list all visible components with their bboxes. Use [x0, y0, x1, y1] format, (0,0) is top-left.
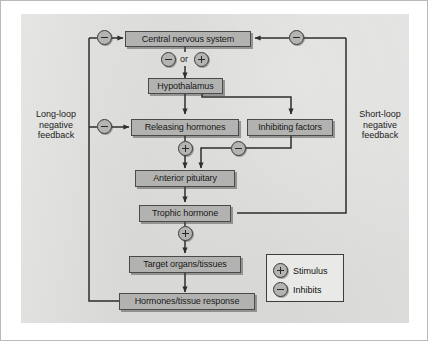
node-hormones-tissue-response[interactable]: Hormones/tissue response: [119, 293, 255, 310]
minus-glyph: [165, 59, 172, 61]
minus-glyph: [293, 37, 300, 39]
minus-glyph: [101, 126, 108, 128]
legend-item-inhibits: Inhibits: [273, 282, 322, 297]
token-minus-cns-output: [161, 52, 176, 67]
watermark: · ···· ·: [279, 318, 305, 325]
minus-glyph: [101, 37, 108, 39]
node-target-organs-tissues[interactable]: Target organs/tissues: [129, 256, 241, 273]
plus-glyph-vertical: [280, 267, 282, 274]
node-inhibiting-factors[interactable]: Inhibiting factors: [247, 119, 333, 136]
wire-long-loop-rail: [89, 38, 131, 301]
minus-glyph: [235, 148, 242, 150]
minus-glyph: [277, 289, 284, 291]
plus-icon: [273, 263, 288, 278]
node-anterior-pituitary[interactable]: Anterior pituitary: [135, 170, 235, 187]
plus-glyph-vertical: [185, 230, 187, 237]
token-plus-trophic-to-target: [178, 226, 193, 241]
node-hypothalamus[interactable]: Hypothalamus: [148, 78, 223, 94]
legend-box: Stimulus Inhibits: [266, 254, 344, 302]
wire-inhibiting-down-left: [246, 136, 291, 148]
token-minus-inhibiting-to-pituitary: [231, 141, 246, 156]
token-plus-releasing-to-pituitary: [178, 141, 193, 156]
legend-label-stimulus: Stimulus: [293, 266, 328, 276]
figure-root: Central nervous system Hypothalamus Rele…: [0, 0, 428, 341]
node-trophic-hormone[interactable]: Trophic hormone: [139, 205, 231, 222]
plus-glyph-vertical: [201, 56, 203, 63]
token-minus-long-loop-releasing: [97, 119, 112, 134]
wire-inhibiting-to-pituitary: [201, 148, 231, 168]
token-plus-cns-output: [194, 52, 209, 67]
token-minus-short-loop-cns: [289, 30, 304, 45]
legend-label-inhibits: Inhibits: [293, 285, 322, 295]
or-label: or: [180, 54, 188, 64]
minus-icon: [273, 282, 288, 297]
legend-item-stimulus: Stimulus: [273, 263, 328, 278]
token-minus-long-loop-cns: [97, 30, 112, 45]
caption-short-loop-negative-feedback: Short-loop negative feedback: [351, 109, 409, 141]
node-central-nervous-system[interactable]: Central nervous system: [125, 31, 251, 47]
wire-hypothalamus-to-inhibiting: [202, 94, 291, 114]
plus-glyph-vertical: [185, 145, 187, 152]
caption-long-loop-negative-feedback: Long-loop negative feedback: [26, 109, 86, 141]
node-releasing-hormones[interactable]: Releasing hormones: [131, 119, 239, 136]
